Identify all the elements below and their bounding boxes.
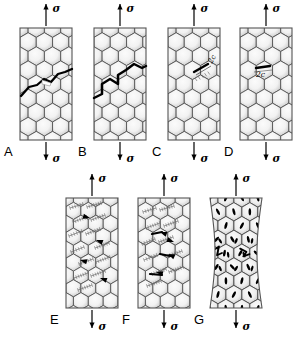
panel-label-a: A bbox=[4, 144, 13, 159]
stress-arrow-top-b: σ bbox=[117, 2, 134, 27]
stress-arrow-bottom-c: σ bbox=[191, 142, 208, 164]
stress-arrow-bottom-g: σ bbox=[233, 310, 250, 332]
panel-label-d: D bbox=[224, 144, 233, 159]
stress-label-top-e: σ bbox=[99, 172, 107, 184]
panel-label-e: E bbox=[50, 312, 59, 327]
panel-label-b: B bbox=[78, 144, 87, 159]
specimen-g bbox=[186, 175, 305, 331]
panel-d: σσ2cD bbox=[216, 2, 305, 165]
stress-arrow-top-d: σ bbox=[263, 2, 280, 27]
stress-label-bottom-f: σ bbox=[171, 320, 179, 332]
stress-arrow-top-e: σ bbox=[89, 172, 106, 197]
panel-label-f: F bbox=[122, 312, 130, 327]
stress-label-top-a: σ bbox=[53, 2, 61, 14]
stress-label-bottom-e: σ bbox=[99, 320, 107, 332]
stress-arrow-bottom-f: σ bbox=[161, 310, 178, 332]
stress-arrow-bottom-a: σ bbox=[43, 142, 60, 164]
stress-label-bottom-g: σ bbox=[243, 320, 251, 332]
stress-arrow-bottom-d: σ bbox=[263, 142, 280, 164]
figure-canvas: σσAσσBσσ2cCσσ2cDσσEσσFσσG bbox=[0, 0, 305, 339]
stress-label-top-g: σ bbox=[243, 172, 251, 184]
stress-label-bottom-a: σ bbox=[53, 152, 61, 164]
stress-label-bottom-d: σ bbox=[273, 152, 281, 164]
specimen-d: 2c bbox=[216, 5, 305, 165]
panel-label-c: C bbox=[152, 144, 161, 159]
stress-label-top-b: σ bbox=[127, 2, 135, 14]
figure-svg: σσAσσBσσ2cCσσ2cDσσEσσFσσG bbox=[0, 0, 305, 339]
panel-g: σσG bbox=[186, 172, 305, 332]
stress-label-top-f: σ bbox=[171, 172, 179, 184]
stress-arrow-top-g: σ bbox=[233, 172, 250, 197]
stress-arrow-top-a: σ bbox=[43, 2, 60, 27]
stress-arrow-bottom-b: σ bbox=[117, 142, 134, 164]
stress-label-bottom-b: σ bbox=[127, 152, 135, 164]
stress-label-top-c: σ bbox=[201, 2, 209, 14]
stress-arrow-top-c: σ bbox=[191, 2, 208, 27]
panel-label-g: G bbox=[194, 312, 204, 327]
stress-arrow-bottom-e: σ bbox=[89, 310, 106, 332]
panel-f: σσF bbox=[116, 172, 228, 336]
stress-arrow-top-f: σ bbox=[161, 172, 178, 197]
stress-label-top-d: σ bbox=[273, 2, 281, 14]
stress-label-bottom-c: σ bbox=[201, 152, 209, 164]
